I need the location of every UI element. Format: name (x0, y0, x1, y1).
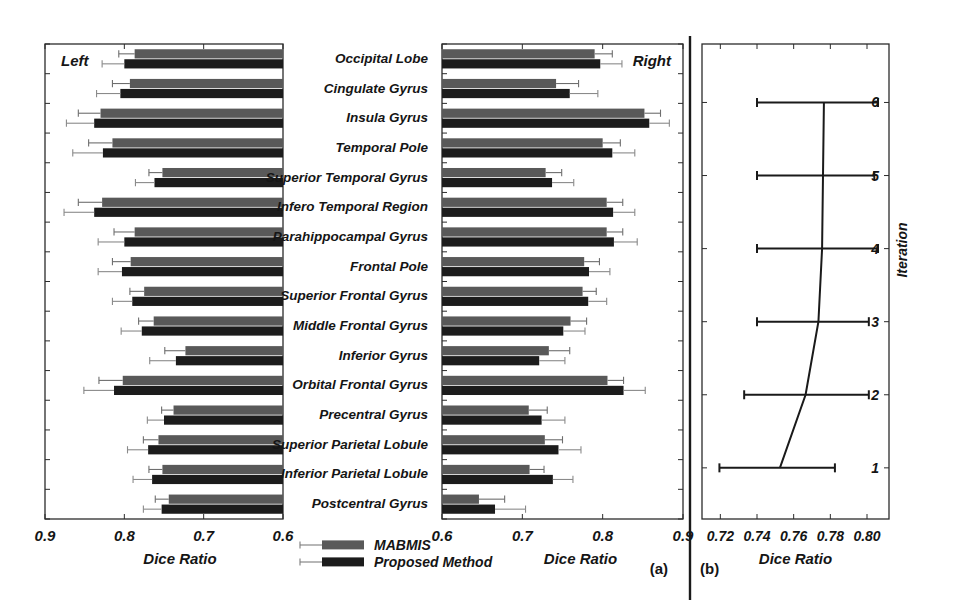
bar-mabmis (442, 287, 583, 296)
left-x-tick-label: 0.7 (193, 527, 215, 544)
bar-mabmis (442, 138, 603, 147)
bar-proposed-method (124, 237, 283, 246)
bar-mabmis (442, 405, 529, 414)
category-label: Inferior Parietal Lobule (281, 466, 429, 481)
b-y-tick-label: 5 (871, 168, 879, 184)
category-label: Superior Frontal Gyrus (280, 288, 428, 303)
bar-proposed-method (442, 415, 542, 424)
category-label-column: Occipital LobeCingulate GyrusInsula Gyru… (266, 51, 429, 511)
bar-mabmis (135, 227, 283, 236)
right-x-axis-title: Dice Ratio (544, 550, 617, 567)
b-y-tick-label: 6 (871, 94, 879, 110)
category-label: Infero Temporal Region (277, 199, 428, 214)
bar-proposed-method (442, 475, 553, 484)
bar-mabmis (102, 198, 283, 207)
category-label: Superior Temporal Gyrus (266, 170, 429, 185)
bar-proposed-method (120, 89, 283, 98)
b-x-tick-label: 0.74 (743, 528, 770, 544)
category-label: Temporal Pole (335, 140, 428, 155)
bar-proposed-method (442, 356, 539, 365)
bar-proposed-method (442, 59, 600, 68)
legend-swatch (322, 557, 364, 566)
bar-proposed-method (152, 475, 283, 484)
panel-b: 1234560.720.740.760.780.80Dice RatioIter… (702, 44, 910, 567)
bar-mabmis (101, 109, 283, 118)
figure-container: 0.90.80.70.6Dice RatioLeftOccipital Lobe… (0, 0, 959, 610)
right-x-tick-label: 0.7 (512, 527, 534, 544)
bar-mabmis (442, 316, 571, 325)
bar-proposed-method (164, 415, 283, 424)
bar-mabmis (162, 465, 283, 474)
b-y-tick-label: 1 (871, 460, 879, 476)
b-x-axis-title: Dice Ratio (759, 550, 832, 567)
bar-proposed-method (148, 445, 283, 454)
bar-proposed-method (442, 386, 624, 395)
legend-label: Proposed Method (374, 554, 493, 570)
bar-proposed-method (103, 148, 283, 157)
panel-a-left: 0.90.80.70.6Dice RatioLeft (35, 44, 295, 567)
bar-proposed-method (442, 445, 558, 454)
right-x-tick-label: 0.6 (432, 527, 454, 544)
bar-proposed-method (442, 119, 649, 128)
bar-proposed-method (442, 297, 588, 306)
right-side-label: Right (633, 52, 672, 69)
bar-proposed-method (94, 119, 283, 128)
bar-mabmis (169, 495, 283, 504)
b-plot (702, 44, 889, 519)
category-label: Middle Frontal Gyrus (293, 318, 429, 333)
category-label: Inferior Gyrus (339, 348, 429, 363)
right-x-tick-label: 0.8 (592, 527, 614, 544)
bar-proposed-method (442, 178, 552, 187)
category-label: Parahippocampal Gyrus (273, 229, 429, 244)
bar-mabmis (154, 316, 283, 325)
bar-mabmis (123, 376, 283, 385)
b-plot-frame (702, 44, 889, 519)
bar-proposed-method (132, 297, 283, 306)
left-x-axis-title: Dice Ratio (143, 550, 216, 567)
bar-proposed-method (142, 326, 283, 335)
left-x-tick-label: 0.6 (273, 527, 295, 544)
legend-swatch (322, 540, 364, 549)
left-x-tick-label: 0.8 (114, 527, 136, 544)
panel-a-right: 0.60.70.80.9Dice RatioRight (432, 44, 695, 567)
bar-proposed-method (442, 148, 612, 157)
b-y-axis-title: Iteration (894, 222, 910, 277)
bar-proposed-method (176, 356, 283, 365)
legend: MABMISProposed Method (300, 537, 493, 570)
bar-proposed-method (442, 267, 589, 276)
bar-mabmis (158, 435, 283, 444)
b-mean-line (780, 102, 824, 467)
b-y-tick-label: 4 (870, 241, 879, 257)
bar-mabmis (442, 435, 545, 444)
bar-proposed-method (122, 267, 283, 276)
bar-proposed-method (442, 208, 613, 217)
bar-mabmis (442, 168, 546, 177)
left-side-label: Left (61, 52, 90, 69)
b-y-tick-label: 2 (870, 387, 879, 403)
category-label: Superior Parietal Lobule (272, 437, 429, 452)
bar-mabmis (442, 227, 607, 236)
bar-mabmis (442, 495, 479, 504)
bar-proposed-method (442, 89, 570, 98)
bar-mabmis (442, 376, 607, 385)
bar-mabmis (144, 287, 283, 296)
bar-mabmis (185, 346, 283, 355)
category-label: Orbital Frontal Gyrus (292, 377, 428, 392)
b-x-tick-label: 0.80 (853, 528, 880, 544)
b-x-tick-label: 0.76 (780, 528, 807, 544)
bar-proposed-method (442, 237, 614, 246)
bar-mabmis (442, 109, 644, 118)
bar-proposed-method (154, 178, 283, 187)
bar-proposed-method (124, 59, 283, 68)
category-label: Postcentral Gyrus (312, 496, 429, 511)
bar-mabmis (442, 465, 530, 474)
bar-proposed-method (162, 505, 283, 514)
panel-b-tag: (b) (700, 560, 719, 577)
category-label: Insula Gyrus (346, 110, 428, 125)
b-y-tick-label: 3 (871, 314, 879, 330)
category-label: Frontal Pole (350, 259, 428, 274)
bar-mabmis (442, 198, 607, 207)
bar-proposed-method (94, 208, 283, 217)
bar-proposed-method (442, 326, 563, 335)
bar-mabmis (442, 79, 556, 88)
